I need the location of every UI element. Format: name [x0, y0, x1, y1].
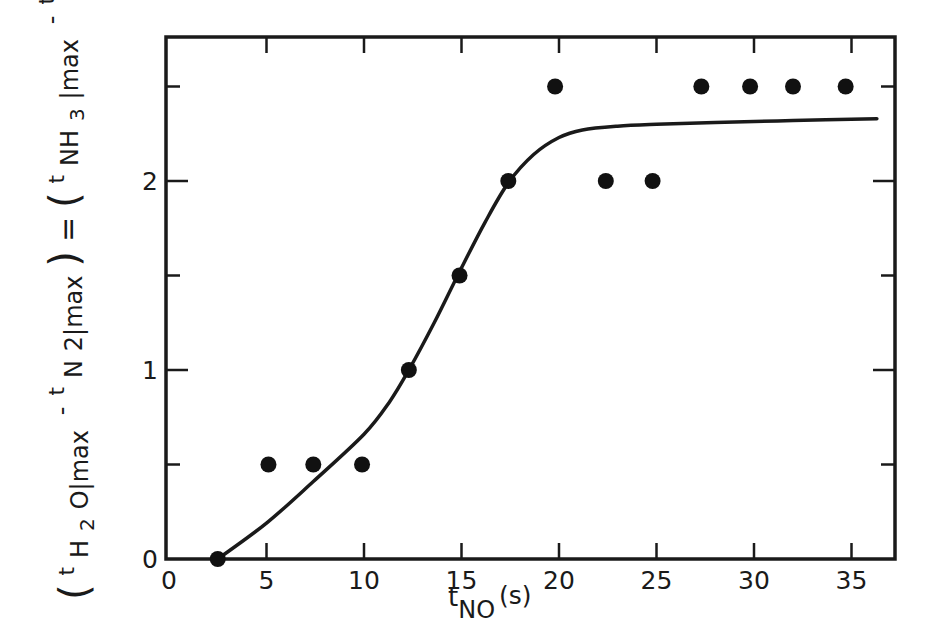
- data-points: [210, 79, 854, 568]
- x-tick-label: 20: [543, 566, 575, 595]
- data-point: [354, 457, 370, 473]
- x-tick-label: 35: [836, 566, 868, 595]
- x-tick-label: 25: [641, 566, 673, 595]
- data-point: [645, 173, 661, 189]
- y-axis-ticks: [166, 87, 895, 465]
- y-tick-label: 0: [142, 545, 158, 574]
- chart: 05101520253035 012 tNO(s) ( t H 2 O|max …: [0, 0, 929, 644]
- y-tick-label: 1: [142, 356, 158, 385]
- x-tick-label: 30: [738, 566, 770, 595]
- data-point: [401, 362, 417, 378]
- data-point: [452, 268, 468, 284]
- data-point: [598, 173, 614, 189]
- fit-curve: [218, 119, 877, 559]
- y-tick-label: 2: [142, 167, 158, 196]
- x-tick-label: 0: [161, 566, 177, 595]
- x-tick-label: 5: [259, 566, 275, 595]
- data-point: [500, 173, 516, 189]
- data-point: [693, 79, 709, 95]
- plot-frame: [166, 37, 895, 559]
- data-point: [838, 79, 854, 95]
- x-tick-label: 10: [348, 566, 380, 595]
- data-point: [785, 79, 801, 95]
- data-point: [210, 551, 226, 567]
- svg-text:( t H 2: ( t H 2 O|max - t N 2|max ) = ( t NH 3 |…: [28, 0, 101, 600]
- data-point: [547, 79, 563, 95]
- data-point: [742, 79, 758, 95]
- data-point: [260, 457, 276, 473]
- data-point: [305, 457, 321, 473]
- y-axis-tick-labels: 012: [142, 167, 158, 574]
- x-axis-ticks: [267, 37, 852, 559]
- y-axis-label: ( t H 2 O|max - t N 2|max ) = ( t NH 3 |…: [28, 0, 101, 600]
